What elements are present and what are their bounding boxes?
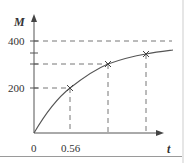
y-axis-title: M (14, 16, 25, 28)
chart-plot (0, 0, 184, 163)
x-axis-title: t (167, 143, 170, 155)
chart: M 400 200 0 0.56 t (0, 0, 184, 163)
axes (30, 20, 160, 133)
right-divider (182, 0, 184, 163)
x-axis-arrow-icon (156, 130, 164, 136)
y-tick-label-400: 400 (8, 36, 25, 47)
y-tick-label-200: 200 (8, 83, 25, 94)
bottom-divider (0, 156, 184, 157)
guide-lines (34, 41, 172, 133)
x-tick-label-0: 0 (31, 143, 37, 154)
y-axis-arrow-icon (31, 14, 37, 22)
x-tick-label-056: 0.56 (61, 143, 80, 154)
growth-curve (34, 50, 173, 133)
